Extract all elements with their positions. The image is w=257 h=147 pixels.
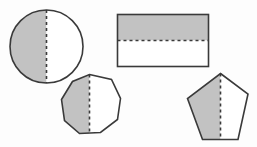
shape-rectangle[interactable] <box>118 15 209 67</box>
figure-canvas <box>0 0 257 147</box>
shape-circle[interactable] <box>10 10 83 83</box>
rectangle-unshaded-half <box>118 41 209 67</box>
shapes-figure <box>0 0 257 147</box>
rectangle-shaded-half <box>118 15 209 41</box>
